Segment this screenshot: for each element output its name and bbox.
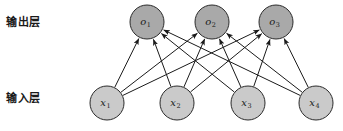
- neural-network-diagram: 输出层 输入层 o1o2o3x1x2x3x4: [0, 0, 343, 131]
- node-o2: o2: [195, 5, 229, 39]
- edge-x2-o2: [184, 39, 205, 87]
- node-x1: x1: [90, 86, 124, 120]
- edge-x3-o2: [220, 39, 241, 87]
- node-x2: x2: [160, 86, 194, 120]
- caption-sliver: [0, 126, 343, 131]
- edge-x2-o3: [191, 34, 262, 92]
- edge-x4-o2: [227, 33, 303, 92]
- edge-x1-o3: [123, 30, 260, 95]
- edge-x4-o3: [284, 39, 308, 88]
- node-o3: o3: [259, 5, 293, 39]
- edge-x1-o1: [115, 39, 139, 88]
- node-x3: x3: [231, 86, 265, 120]
- network-graph: o1o2o3x1x2x3x4: [0, 0, 343, 131]
- edge-x3-o1: [161, 34, 234, 92]
- edges-group: [115, 30, 309, 95]
- node-x4: x4: [299, 86, 333, 120]
- node-o1: o1: [130, 5, 164, 39]
